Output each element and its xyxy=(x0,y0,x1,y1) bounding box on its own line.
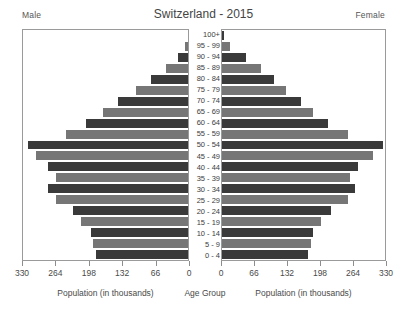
female-bar xyxy=(222,108,313,117)
age-group-label: 35 - 39 xyxy=(189,173,221,184)
age-group-label: 95 - 99 xyxy=(189,40,221,51)
male-bar xyxy=(66,130,189,139)
axis-tick-label: 132 xyxy=(115,268,129,278)
male-bar xyxy=(56,173,189,182)
male-bar-row xyxy=(23,30,188,41)
age-group-label: 100+ xyxy=(189,29,221,40)
female-bar-row xyxy=(222,183,385,194)
female-bar-row xyxy=(222,129,385,140)
male-bar-row xyxy=(23,205,188,216)
male-bar xyxy=(178,53,188,62)
axis-tick-label: 264 xyxy=(48,268,62,278)
axis-tick xyxy=(156,261,157,266)
male-bar-row xyxy=(23,194,188,205)
female-bar xyxy=(222,151,373,160)
female-bar-row xyxy=(222,249,385,260)
female-bar-row xyxy=(222,96,385,107)
female-bar-row xyxy=(222,140,385,151)
female-bar xyxy=(222,239,311,248)
male-bar xyxy=(36,151,189,160)
male-bar xyxy=(48,162,188,171)
axis-tick-label: 198 xyxy=(313,268,327,278)
female-bar xyxy=(222,141,383,150)
male-bar-row xyxy=(23,238,188,249)
male-bar-row xyxy=(23,183,188,194)
male-bar-row xyxy=(23,63,188,74)
female-bar-row xyxy=(222,238,385,249)
axis-tick-label: 330 xyxy=(15,268,29,278)
age-group-label: 10 - 14 xyxy=(189,228,221,239)
male-bar xyxy=(86,119,189,128)
male-bar-row xyxy=(23,96,188,107)
age-group-label: 90 - 94 xyxy=(189,51,221,62)
axis-tick xyxy=(189,261,190,266)
axis-tick xyxy=(287,261,288,266)
female-bar xyxy=(222,64,261,73)
age-group-label: 45 - 49 xyxy=(189,151,221,162)
axis-tick-label: 0 xyxy=(219,268,224,278)
age-group-label: 70 - 74 xyxy=(189,95,221,106)
male-bar xyxy=(93,239,188,248)
male-bar xyxy=(73,206,188,215)
female-bar-row xyxy=(222,205,385,216)
female-bar-row xyxy=(222,118,385,129)
age-group-label: 25 - 29 xyxy=(189,195,221,206)
male-bar-row xyxy=(23,172,188,183)
axis-tick xyxy=(221,261,222,266)
female-bar xyxy=(222,75,274,84)
axis-tick-label: 66 xyxy=(249,268,258,278)
female-bar-rows xyxy=(222,30,385,260)
age-group-label: 55 - 59 xyxy=(189,128,221,139)
female-bar xyxy=(222,195,348,204)
chart-title: Switzerland - 2015 xyxy=(0,7,407,21)
male-bar-row xyxy=(23,216,188,227)
age-group-label: 15 - 19 xyxy=(189,217,221,228)
female-bar-row xyxy=(222,194,385,205)
male-axis-tick-labels: 330264198132660 xyxy=(22,268,189,280)
female-bar xyxy=(222,173,350,182)
population-pyramid-chart: Male Female Switzerland - 2015 100+95 - … xyxy=(0,0,407,316)
male-bar-row xyxy=(23,150,188,161)
male-bar-row xyxy=(23,41,188,52)
female-bar xyxy=(222,250,308,259)
male-bar xyxy=(136,86,189,95)
female-bar xyxy=(222,119,328,128)
female-bar xyxy=(222,162,358,171)
axis-tick xyxy=(55,261,56,266)
male-bar xyxy=(56,195,189,204)
female-bar xyxy=(222,42,230,51)
axis-tick xyxy=(320,261,321,266)
male-bar xyxy=(81,217,188,226)
male-bar xyxy=(96,250,189,259)
male-bar-row xyxy=(23,74,188,85)
age-group-label: 0 - 4 xyxy=(189,250,221,261)
male-bar xyxy=(103,108,188,117)
female-axis-tick-labels: 066132198264330 xyxy=(221,268,386,280)
female-bar xyxy=(222,97,301,106)
male-bar-row xyxy=(23,249,188,260)
female-axis-caption: Population (in thousands) xyxy=(221,288,386,298)
female-bar-row xyxy=(222,227,385,238)
female-bar-row xyxy=(222,41,385,52)
female-bar xyxy=(222,228,313,237)
female-axis-ticks xyxy=(221,261,386,266)
age-group-axis: 100+95 - 9990 - 9485 - 8980 - 8475 - 797… xyxy=(189,29,221,261)
female-bar-row xyxy=(222,216,385,227)
male-bar xyxy=(28,141,188,150)
age-group-label: 85 - 89 xyxy=(189,62,221,73)
female-bar xyxy=(222,217,321,226)
male-bar xyxy=(48,184,188,193)
male-bar-rows xyxy=(23,30,188,260)
male-bar-row xyxy=(23,118,188,129)
female-bar-row xyxy=(222,63,385,74)
axis-tick xyxy=(22,261,23,266)
female-bar-row xyxy=(222,85,385,96)
axis-tick-label: 132 xyxy=(280,268,294,278)
axis-tick xyxy=(254,261,255,266)
age-group-label: 30 - 34 xyxy=(189,184,221,195)
male-bar xyxy=(91,228,189,237)
male-bar-row xyxy=(23,140,188,151)
age-group-label: 40 - 44 xyxy=(189,162,221,173)
female-plot-panel xyxy=(221,29,386,261)
axis-tick xyxy=(353,261,354,266)
